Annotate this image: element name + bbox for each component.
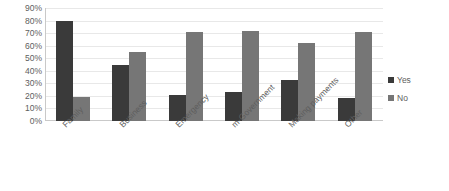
y-axis-tick-label: 10% <box>8 104 42 113</box>
y-axis-tick-label: 80% <box>8 16 42 25</box>
bar-group <box>327 8 383 121</box>
plot-area <box>45 8 383 121</box>
legend-label: No <box>397 94 408 103</box>
y-axis-tick-label: 60% <box>8 41 42 50</box>
bar-groups <box>45 8 383 121</box>
x-axis-labels: FamilyBusinessEmergencym-GovernmentMakin… <box>45 121 383 189</box>
y-axis-tick-label: 50% <box>8 54 42 63</box>
y-axis-tick-label: 20% <box>8 92 42 101</box>
y-axis-tick-label: 90% <box>8 4 42 13</box>
legend-item[interactable]: Yes <box>388 76 411 85</box>
y-axis-tick-label: 30% <box>8 79 42 88</box>
legend-swatch-icon <box>388 77 394 83</box>
legend-label: Yes <box>397 76 411 85</box>
bar-yes <box>56 21 73 121</box>
bar-group <box>101 8 157 121</box>
y-axis-tick-label: 40% <box>8 67 42 76</box>
bar-group <box>45 8 101 121</box>
bar-group <box>214 8 270 121</box>
legend-swatch-icon <box>388 95 394 101</box>
y-axis-tick-label: 70% <box>8 29 42 38</box>
y-axis-tick-label: 0% <box>8 117 42 126</box>
legend-item[interactable]: No <box>388 94 411 103</box>
chart-legend: YesNo <box>388 76 411 102</box>
y-axis: 90%80%70%60%50%40%30%20%10%0% <box>8 8 42 121</box>
bar-chart: 90%80%70%60%50%40%30%20%10%0% FamilyBusi… <box>0 0 449 191</box>
